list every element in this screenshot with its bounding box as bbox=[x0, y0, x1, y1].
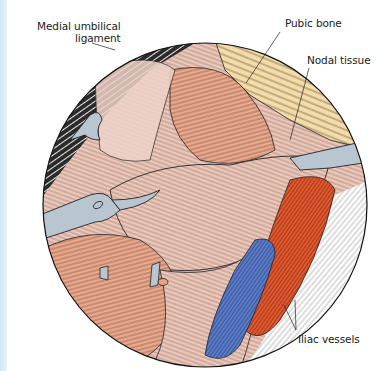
label-iliac-vessels: Iliac vessels bbox=[298, 333, 360, 345]
leader-line bbox=[92, 43, 115, 50]
label-line-2: ligament bbox=[37, 32, 121, 44]
scope-view bbox=[40, 40, 370, 370]
label-line-1: Medial umbilical bbox=[37, 20, 121, 32]
surgical-clip bbox=[100, 266, 108, 280]
label-nodal-tissue: Nodal tissue bbox=[307, 54, 371, 66]
label-pubic-bone: Pubic bone bbox=[285, 17, 342, 29]
label-medial-umbilical-ligament: Medial umbilical ligament bbox=[37, 20, 121, 44]
